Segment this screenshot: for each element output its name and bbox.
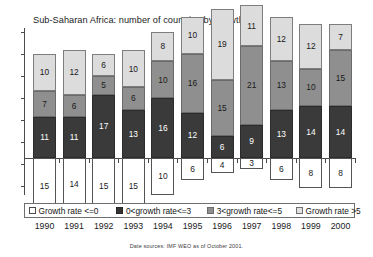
bar-segment: 8 [151,32,174,62]
legend-swatch-icon [296,207,303,214]
bar-group: 141578 [329,28,352,195]
bar-segment: 13 [270,61,293,109]
legend-label: 3<growth rate<=5 [217,206,282,216]
bar-segment: 10 [33,54,56,91]
plot-area: 1171015116121417561513610151610810121610… [24,28,356,195]
legend-swatch-icon [207,207,214,214]
x-axis-label: 1992 [90,221,118,231]
bar-segment: 7 [33,91,56,117]
x-axis-label: 1991 [60,221,88,231]
legend-label: Growth rate <=0 [39,206,99,216]
bar-segment: 11 [240,5,263,46]
bar-group: 1313126 [270,28,293,195]
legend-item: 3<growth rate<=5 [207,206,282,216]
x-axis-label: 1998 [267,221,295,231]
bar-segment: 6 [211,136,234,158]
bar-segment: 3 [240,158,263,169]
bar-segment: 21 [240,46,263,124]
bar-segment: 14 [329,106,352,158]
bar-group: 1410128 [299,28,322,195]
bar-segment: 10 [151,158,174,195]
bar-series-container: 1171015116121417561513610151610810121610… [24,28,356,195]
x-axis-label: 2000 [327,221,355,231]
bar-segment: 6 [92,54,115,76]
bar-segment: 10 [151,61,174,98]
legend-item: 0<growth rate<=3 [116,206,191,216]
x-axis-label: 1994 [149,221,177,231]
bar-segment: 5 [92,76,115,95]
bar-segment: 10 [122,50,145,87]
bar-segment: 8 [299,158,322,188]
bar-segment: 8 [329,158,352,188]
legend-label: 0<growth rate<=3 [126,206,191,216]
x-axis-labels: 1990199119921993199419951996199719981999… [24,221,356,235]
bar-segment: 11 [33,117,56,158]
x-axis-label: 1999 [297,221,325,231]
bar-group: 1361015 [122,28,145,195]
legend-swatch-icon [116,207,123,214]
bar-segment: 15 [211,80,234,136]
bar-segment: 13 [122,110,145,158]
legend-label: Growth rate >5 [306,206,361,216]
bar-segment: 19 [211,9,234,80]
bar-group: 1216106 [181,28,204,195]
chart-figure: Sub-Saharan Africa: number of countries … [0,0,373,257]
bar-segment: 9 [240,125,263,158]
bar-segment: 13 [270,110,293,158]
bar-group: 921113 [240,28,263,195]
bar-segment: 4 [211,158,234,173]
bar-group: 1610810 [151,28,174,195]
bar-segment: 10 [299,69,322,106]
bar-segment: 12 [270,17,293,62]
legend-swatch-icon [29,207,36,214]
x-axis-label: 1995 [179,221,207,231]
bar-segment: 16 [151,98,174,158]
bar-segment: 15 [329,50,352,106]
bar-segment: 6 [63,95,86,117]
bar-segment: 16 [181,54,204,114]
legend-item: Growth rate <=0 [29,206,98,216]
bar-segment: 12 [299,24,322,69]
bar-segment: 7 [329,24,352,50]
bar-segment: 12 [63,50,86,95]
x-axis-label: 1993 [119,221,147,231]
x-axis-label: 1997 [238,221,266,231]
bar-group: 615194 [211,28,234,195]
bar-segment: 11 [63,117,86,158]
bar-group: 1171015 [33,28,56,195]
bar-segment: 6 [122,87,145,109]
source-note: Date sources: IMF WEO as of October 2001… [0,243,373,249]
bar-group: 175615 [92,28,115,195]
bar-segment: 14 [299,106,322,158]
bar-segment: 6 [270,158,293,180]
bar-segment: 17 [92,95,115,158]
chart-legend: Growth rate <=00<growth rate<=33<growth … [24,203,355,218]
bar-segment: 6 [181,158,204,180]
bar-group: 1161214 [63,28,86,195]
x-axis-label: 1990 [31,221,59,231]
legend-item: Growth rate >5 [296,206,361,216]
bar-segment: 10 [181,17,204,54]
x-axis-label: 1996 [208,221,236,231]
bar-segment: 12 [181,113,204,158]
